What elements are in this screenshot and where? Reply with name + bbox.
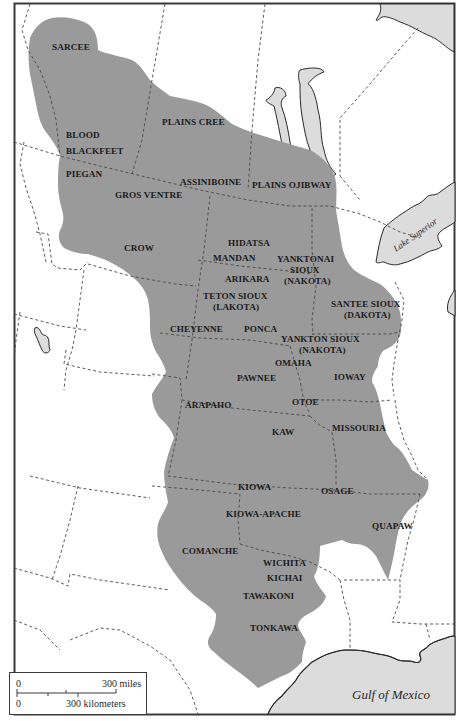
tribe-label: GROS VENTRE bbox=[115, 190, 183, 200]
tribe-label: OTOE bbox=[292, 397, 319, 407]
lake-superior-water bbox=[376, 182, 455, 265]
scale-zero-km: 0 bbox=[16, 698, 21, 709]
tribe-label: MISSOURIA bbox=[332, 423, 386, 433]
tribe-label: PAWNEE bbox=[237, 373, 276, 383]
tribe-label: HIDATSA bbox=[228, 238, 270, 248]
state-border-nd-mn-canada bbox=[340, 176, 360, 200]
state-border-mississippi-louisiana bbox=[426, 624, 430, 640]
plains-tribes-map: SARCEEPLAINS CREEBLOODBLACKFEETPIEGANASS… bbox=[0, 0, 460, 721]
tribe-label: (NAKOTA) bbox=[299, 345, 346, 355]
tribe-label: (NAKOTA) bbox=[284, 276, 331, 286]
tribe-label: OMAHA bbox=[275, 358, 312, 368]
tribe-label: IOWAY bbox=[334, 372, 366, 382]
state-border-nm-north bbox=[30, 476, 150, 498]
state-border-arkansas-south bbox=[344, 580, 454, 624]
hudson-bay-water bbox=[376, 4, 454, 52]
tribe-label: TAWAKONI bbox=[243, 591, 294, 601]
tribe-label: SANTEE SIOUX bbox=[331, 299, 401, 309]
water-body-label: Gulf of Mexico bbox=[352, 687, 430, 702]
tribe-label: SARCEE bbox=[52, 42, 90, 52]
great-salt-lake-water bbox=[34, 327, 50, 353]
tribe-label: KAW bbox=[272, 427, 295, 437]
tribe-label: CHEYENNE bbox=[170, 324, 223, 334]
tribe-label: PIEGAN bbox=[66, 169, 103, 179]
tribe-label: KICHAI bbox=[267, 573, 303, 583]
tribe-label: BLOOD bbox=[66, 130, 100, 140]
province-border-manitoba-ontario bbox=[340, 28, 418, 176]
tribe-label: PLAINS CREE bbox=[162, 117, 225, 127]
tribe-label: PONCA bbox=[244, 324, 277, 334]
tribe-label: ARAPAHO bbox=[185, 400, 231, 410]
state-border-wyoming-south bbox=[14, 314, 86, 330]
state-border-utah-colorado bbox=[64, 350, 154, 376]
scale-bar: 0 300 miles 0 300 kilometers bbox=[10, 673, 147, 715]
tribe-label: PLAINS OJIBWAY bbox=[252, 180, 332, 190]
state-border-wyoming-east bbox=[64, 270, 84, 390]
tribe-label: ASSINIBOINE bbox=[180, 177, 241, 187]
tribe-label: WICHITA bbox=[263, 558, 306, 568]
tribe-label: YANKTONAI bbox=[277, 254, 334, 264]
state-border-texas-louisiana bbox=[340, 580, 350, 648]
state-border-idaho-montana bbox=[20, 142, 46, 262]
tribe-label: ARIKARA bbox=[225, 274, 270, 284]
tribe-label: KIOWA bbox=[238, 482, 271, 492]
tribe-label: QUAPAW bbox=[372, 521, 413, 531]
tribe-label: COMANCHE bbox=[182, 546, 238, 556]
state-border-new-mexico-east bbox=[52, 486, 78, 580]
scale-miles-label: 300 miles bbox=[102, 678, 141, 689]
tribe-label: CROW bbox=[124, 243, 155, 253]
tribe-label: TONKAWA bbox=[250, 623, 298, 633]
tribe-label: TETON SIOUX bbox=[203, 291, 268, 301]
state-border-nm-texas bbox=[14, 568, 170, 590]
tribe-label: OSAGE bbox=[321, 486, 354, 496]
plains-territory bbox=[29, 17, 429, 688]
tribe-label: (LAKOTA) bbox=[213, 302, 259, 312]
scale-km-label: 300 kilometers bbox=[66, 698, 126, 709]
tribe-label: (DAKOTA) bbox=[344, 310, 391, 320]
scale-zero-miles: 0 bbox=[16, 678, 21, 689]
tribe-label: YANKTON SIOUX bbox=[281, 334, 360, 344]
tribe-label: MANDAN bbox=[213, 253, 256, 263]
lake-michigan-water bbox=[447, 290, 455, 316]
tribe-label: BLACKFEET bbox=[66, 146, 124, 156]
tribe-label: SIOUX bbox=[290, 265, 320, 275]
tribe-label: KIOWA-APACHE bbox=[226, 509, 301, 519]
state-border-arizona bbox=[14, 620, 60, 650]
